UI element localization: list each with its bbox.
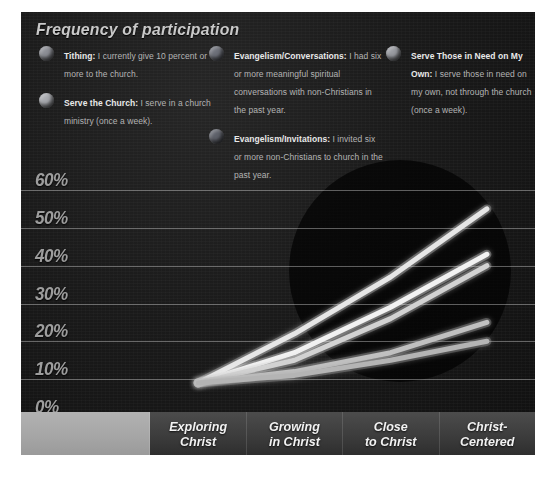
legend-column-2: Evangelism/Conversations: I had six or m…: [207, 45, 383, 193]
legend: Frequency of participation Tithing: I cu…: [21, 12, 535, 140]
legend-color-dot: [209, 129, 224, 144]
x-axis-label: Exploring Christ: [169, 419, 227, 449]
x-axis-label: Christ- Centered: [460, 419, 514, 449]
x-axis: Exploring Christ Growing in Christ Close…: [21, 412, 535, 455]
x-axis-label: Growing in Christ: [269, 419, 320, 449]
legend-label: Evangelism/Conversations: I had six or m…: [234, 51, 381, 115]
legend-series-name: Evangelism/Invitations:: [234, 134, 330, 144]
legend-label: Tithing: I currently give 10 percent or …: [64, 51, 207, 79]
legend-color-dot: [39, 93, 54, 108]
x-axis-category-close-to-christ[interactable]: Close to Christ: [343, 412, 440, 455]
x-axis-corner-pad: [21, 412, 150, 455]
chart-panel: Frequency of participation Tithing: I cu…: [21, 12, 535, 455]
legend-label: Serve Those in Need on My Own: I serve t…: [411, 51, 532, 115]
legend-item: Evangelism/Invitations: I invited six or…: [207, 128, 383, 182]
legend-column-3: Serve Those in Need on My Own: I serve t…: [384, 45, 536, 128]
chart-screenshot: Frequency of participation Tithing: I cu…: [0, 0, 556, 481]
x-axis-category-christ-centered[interactable]: Christ- Centered: [440, 412, 536, 455]
legend-column-1: Tithing: I currently give 10 percent or …: [37, 45, 212, 139]
legend-label: Serve the Church: I serve in a church mi…: [64, 98, 211, 126]
legend-color-dot: [209, 46, 224, 61]
legend-color-dot: [386, 46, 401, 61]
legend-item: Evangelism/Conversations: I had six or m…: [207, 45, 383, 117]
x-axis-category-exploring-christ[interactable]: Exploring Christ: [150, 412, 247, 455]
x-axis-label: Close to Christ: [365, 419, 417, 449]
legend-item: Serve Those in Need on My Own: I serve t…: [384, 45, 536, 117]
legend-item: Serve the Church: I serve in a church mi…: [37, 92, 212, 128]
legend-series-name: Serve the Church:: [64, 98, 138, 108]
legend-color-dot: [39, 46, 54, 61]
legend-label: Evangelism/Invitations: I invited six or…: [234, 134, 383, 180]
x-axis-category-growing-in-christ[interactable]: Growing in Christ: [247, 412, 344, 455]
legend-series-name: Evangelism/Conversations:: [234, 51, 347, 61]
series-line-glow: [198, 209, 487, 383]
legend-series-name: Tithing:: [64, 51, 95, 61]
chart-title: Frequency of participation: [36, 20, 239, 40]
legend-item: Tithing: I currently give 10 percent or …: [37, 45, 212, 81]
